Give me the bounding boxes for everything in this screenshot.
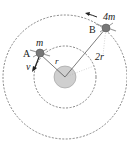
label-mass-a: m bbox=[36, 37, 43, 48]
orbit-diagram: A m v r B 4m 2r bbox=[0, 0, 127, 142]
radius-line-a bbox=[40, 54, 65, 77]
label-mass-b: 4m bbox=[103, 11, 115, 22]
satellite-b bbox=[96, 23, 116, 32]
label-velocity-a: v bbox=[26, 61, 31, 72]
satellite-a bbox=[30, 49, 50, 57]
label-b: B bbox=[89, 24, 96, 35]
label-radius-inner: r bbox=[55, 56, 59, 66]
label-radius-outer: 2r bbox=[95, 51, 104, 62]
label-a: A bbox=[23, 48, 31, 59]
orbit-direction-arrow bbox=[85, 12, 97, 17]
velocity-arrow-a bbox=[32, 57, 39, 72]
